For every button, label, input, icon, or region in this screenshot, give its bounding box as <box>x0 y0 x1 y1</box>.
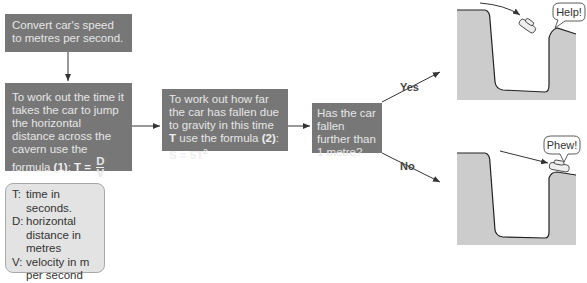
yes-label: Yes <box>400 81 419 93</box>
landed-car-icon <box>549 159 570 172</box>
cavern-yes-illustration: Help! <box>457 3 585 100</box>
step-fall-formula: To work out how far the car has fallen d… <box>162 89 288 151</box>
falling-car-icon <box>518 16 538 35</box>
step-convert-speed: Convert car's speed to metres per second… <box>5 14 132 52</box>
legend-row-v: V: velocity in m per second <box>12 256 98 283</box>
formula-exponent: 2 <box>203 147 207 156</box>
decision-text: Has the car fallen further than 1 metre? <box>317 107 376 158</box>
var-t: T <box>169 132 176 144</box>
denominator: V <box>96 168 104 179</box>
cavern-no-illustration: Phew! <box>457 136 580 245</box>
legend-row-d: D: horizontal distance in metres <box>12 215 98 256</box>
step-time-text: To work out the time it takes the car to… <box>12 91 124 173</box>
step-fall-text: To work out how far the car has fallen d… <box>169 93 279 131</box>
phew-bubble-text: Phew! <box>547 139 578 151</box>
decision-box: Has the car fallen further than 1 metre? <box>312 103 382 153</box>
variables-legend: T: time in seconds. D: horizontal distan… <box>5 183 105 273</box>
formula-number-1: (1) <box>54 161 68 173</box>
step-fall-text2: use the formula <box>179 132 258 144</box>
fraction-d-over-v: D V <box>96 156 104 179</box>
no-label: No <box>400 160 415 172</box>
step-time-formula: To work out the time it takes the car to… <box>5 83 132 171</box>
formula-number-2: (2) <box>262 132 276 144</box>
formula-s: S = 5T <box>169 149 203 161</box>
formula-lhs: T = <box>74 161 91 173</box>
step-convert-speed-text: Convert car's speed to metres per second… <box>12 19 123 44</box>
help-bubble-text: Help! <box>556 6 582 18</box>
legend-row-t: T: time in seconds. <box>12 188 98 215</box>
